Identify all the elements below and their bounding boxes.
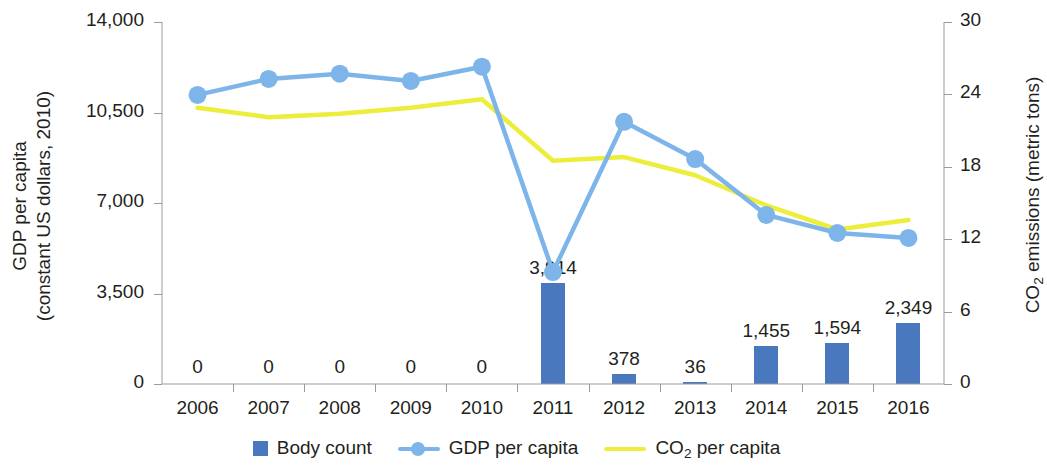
co2-per-capita-line — [198, 99, 909, 229]
gdp-data-point-marker — [331, 65, 349, 83]
line-swatch-icon — [604, 440, 646, 456]
gdp-data-point-marker — [189, 86, 207, 104]
gdp-data-point-marker — [402, 72, 420, 90]
legend-label-co2-per-capita: CO2 per capita — [655, 437, 780, 459]
gdp-data-point-marker — [899, 229, 917, 247]
legend-item-co2-per-capita[interactable]: CO2 per capita — [604, 437, 780, 459]
square-swatch-icon — [253, 441, 268, 456]
legend-item-body-count[interactable]: Body count — [253, 437, 372, 459]
gdp-data-point-marker — [544, 263, 562, 281]
gdp-per-capita-line — [198, 67, 909, 272]
chart-legend: Body count GDP per capita CO2 per capita — [0, 437, 1033, 459]
gdp-data-point-marker — [757, 206, 775, 224]
y-axis-right-title-subscript: 2 — [1031, 277, 1046, 285]
legend-item-gdp-per-capita[interactable]: GDP per capita — [398, 437, 579, 459]
line-marker-swatch-icon — [398, 440, 440, 456]
gdp-per-capita-markers — [189, 58, 918, 281]
legend-label-body-count: Body count — [277, 437, 372, 459]
gdp-data-point-marker — [828, 224, 846, 242]
gdp-data-point-marker — [615, 113, 633, 131]
gdp-data-point-marker — [473, 58, 491, 76]
legend-label-gdp-per-capita: GDP per capita — [449, 437, 579, 459]
gdp-data-point-marker — [686, 150, 704, 168]
gdp-data-point-marker — [260, 70, 278, 88]
